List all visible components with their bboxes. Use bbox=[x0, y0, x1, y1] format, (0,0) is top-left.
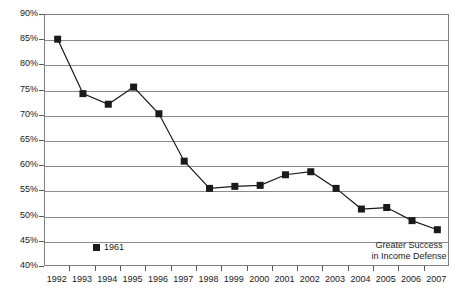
y-tick-label: 45% bbox=[0, 236, 38, 245]
data-point-marker bbox=[105, 101, 112, 108]
x-tick-mark bbox=[95, 266, 96, 271]
y-tick-label: 40% bbox=[0, 261, 38, 270]
plot-area: 1961 Greater Success in Income Defense bbox=[44, 14, 449, 266]
y-tick-label: 55% bbox=[0, 185, 38, 194]
data-point-marker bbox=[155, 110, 162, 117]
data-point-marker bbox=[358, 206, 365, 213]
annotation-line-1: Greater Success bbox=[354, 240, 463, 251]
y-tick-label: 50% bbox=[0, 211, 38, 220]
data-point-marker bbox=[257, 182, 264, 189]
x-tick-mark bbox=[348, 266, 349, 271]
y-tick-label: 80% bbox=[0, 59, 38, 68]
x-tick-label: 1997 bbox=[173, 274, 193, 284]
x-tick-mark bbox=[373, 266, 374, 271]
y-axis: 90%85%80%75%70%65%60%55%50%45%40% bbox=[0, 14, 40, 266]
data-point-marker bbox=[181, 158, 188, 165]
data-point-marker bbox=[54, 36, 61, 43]
x-tick-label: 2004 bbox=[350, 274, 370, 284]
x-tick-mark bbox=[196, 266, 197, 271]
x-tick-label: 2003 bbox=[325, 274, 345, 284]
x-tick-label: 2005 bbox=[376, 274, 396, 284]
y-tick-label: 85% bbox=[0, 34, 38, 43]
series-line bbox=[58, 39, 438, 230]
x-tick-label: 2002 bbox=[300, 274, 320, 284]
x-tick-label: 1993 bbox=[72, 274, 92, 284]
line-chart: 90%85%80%75%70%65%60%55%50%45%40% 1961 G… bbox=[0, 0, 463, 298]
x-tick-mark bbox=[171, 266, 172, 271]
x-tick-mark bbox=[297, 266, 298, 271]
x-tick-label: 1998 bbox=[199, 274, 219, 284]
data-point-marker bbox=[231, 183, 238, 190]
x-tick-label: 2001 bbox=[274, 274, 294, 284]
x-tick-mark bbox=[322, 266, 323, 271]
annotation-line-2: in Income Defense bbox=[354, 251, 463, 262]
y-tick-label: 60% bbox=[0, 160, 38, 169]
x-tick-label: 1999 bbox=[224, 274, 244, 284]
x-tick-mark bbox=[221, 266, 222, 271]
x-tick-label: 1996 bbox=[148, 274, 168, 284]
x-tick-label: 1992 bbox=[47, 274, 67, 284]
legend-swatch-icon bbox=[93, 244, 100, 251]
chart-legend: 1961 bbox=[93, 243, 124, 252]
data-point-marker bbox=[333, 185, 340, 192]
data-point-marker bbox=[409, 217, 416, 224]
data-point-marker bbox=[130, 84, 137, 91]
y-tick-label: 90% bbox=[0, 9, 38, 18]
x-tick-mark bbox=[120, 266, 121, 271]
series-1961 bbox=[45, 15, 450, 267]
data-point-marker bbox=[383, 204, 390, 211]
y-tick-label: 70% bbox=[0, 110, 38, 119]
x-tick-mark bbox=[145, 266, 146, 271]
x-tick-mark bbox=[247, 266, 248, 271]
x-axis: 1992199319941995199619971998199920002001… bbox=[44, 274, 449, 292]
data-point-marker bbox=[307, 168, 314, 175]
greater-success-annotation: Greater Success in Income Defense bbox=[354, 240, 463, 262]
x-tick-mark bbox=[398, 266, 399, 271]
data-point-marker bbox=[79, 90, 86, 97]
x-tick-label: 2006 bbox=[401, 274, 421, 284]
data-point-marker bbox=[206, 185, 213, 192]
y-tick-label: 65% bbox=[0, 135, 38, 144]
data-point-marker bbox=[282, 171, 289, 178]
x-tick-mark bbox=[272, 266, 273, 271]
legend-item-label: 1961 bbox=[104, 243, 124, 252]
x-tick-label: 1995 bbox=[123, 274, 143, 284]
y-tick-mark bbox=[39, 266, 44, 267]
x-tick-mark bbox=[69, 266, 70, 271]
x-tick-label: 2007 bbox=[426, 274, 446, 284]
y-tick-label: 75% bbox=[0, 85, 38, 94]
data-point-marker bbox=[434, 226, 441, 233]
x-tick-label: 2000 bbox=[249, 274, 269, 284]
x-tick-mark bbox=[424, 266, 425, 271]
x-tick-label: 1994 bbox=[97, 274, 117, 284]
